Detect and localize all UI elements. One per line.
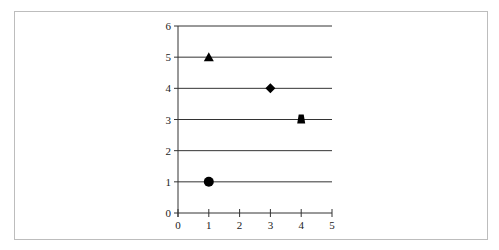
x-tick-label: 5 — [329, 219, 335, 231]
circle-marker — [204, 177, 214, 187]
diamond-marker — [265, 83, 275, 93]
x-tick-label: 4 — [298, 219, 304, 231]
y-tick-label: 4 — [166, 82, 172, 94]
y-tick-label: 5 — [166, 51, 172, 63]
y-axis-ticks: 0123456 — [166, 20, 179, 219]
x-tick-label: 1 — [206, 219, 212, 231]
trapezoid-marker — [297, 115, 305, 124]
scatter-chart: 0123456 012345 — [0, 0, 499, 250]
x-tick-label: 0 — [175, 219, 181, 231]
x-tick-label: 2 — [237, 219, 243, 231]
y-tick-label: 2 — [166, 145, 172, 157]
y-tick-label: 3 — [166, 114, 172, 126]
y-tick-label: 1 — [166, 176, 172, 188]
y-tick-label: 0 — [166, 207, 172, 219]
x-tick-label: 3 — [268, 219, 274, 231]
y-tick-label: 6 — [166, 20, 172, 32]
axes — [178, 26, 332, 217]
x-axis-ticks: 012345 — [175, 209, 335, 231]
gridlines — [178, 26, 332, 182]
